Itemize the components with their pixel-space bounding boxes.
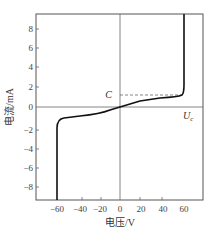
svg-text:2: 2: [29, 82, 34, 92]
svg-text:−8: −8: [23, 182, 33, 192]
c-label: C: [105, 89, 112, 100]
svg-text:−2: −2: [23, 125, 33, 135]
svg-text:0: 0: [29, 102, 34, 112]
svg-text:40: 40: [159, 204, 169, 214]
svg-text:6: 6: [29, 43, 34, 53]
svg-text:8: 8: [29, 24, 34, 34]
x-tick-labels: −60 −40 −20 0 20 40 60: [50, 204, 189, 214]
svg-text:−60: −60: [50, 204, 65, 214]
svg-text:4: 4: [29, 62, 34, 72]
svg-text:60: 60: [180, 204, 190, 214]
svg-text:−40: −40: [73, 204, 88, 214]
svg-text:−20: −20: [93, 204, 108, 214]
uc-label: Uc: [183, 110, 194, 123]
svg-text:−4: −4: [23, 144, 33, 154]
svg-text:0: 0: [118, 204, 123, 214]
y-tick-labels: 8 6 4 2 0 −2 −4 −6 −8: [23, 24, 33, 192]
iv-chart: 8 6 4 2 0 −2 −4 −6 −8 −60 −40 −20 0 20 4…: [0, 0, 212, 239]
svg-text:−6: −6: [23, 163, 33, 173]
svg-text:20: 20: [137, 204, 147, 214]
x-axis-title: 电压/V: [105, 216, 136, 228]
y-axis-title: 电流/mA: [3, 87, 15, 126]
